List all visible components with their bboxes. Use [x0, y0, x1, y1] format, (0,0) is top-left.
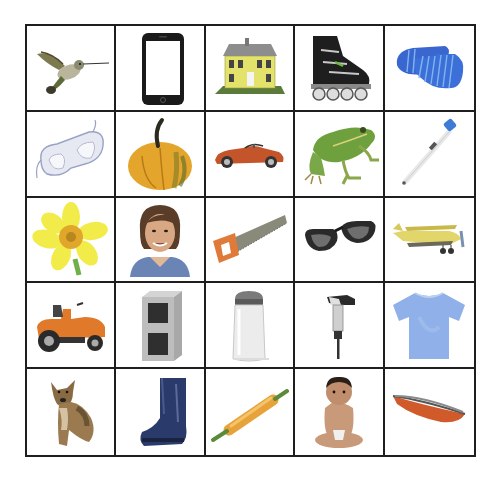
inline-skate-icon: [299, 30, 379, 106]
squash-icon: [120, 116, 200, 192]
cell-rain-boot[interactable]: Rain boot: [116, 369, 205, 455]
cell-inline-skate[interactable]: Inline skate: [295, 26, 384, 112]
tshirt-icon: [389, 287, 469, 363]
woman-icon: [120, 201, 200, 277]
thermometer-icon: [389, 116, 469, 192]
frog-icon: [299, 116, 379, 192]
cell-lawn-mower[interactable]: Riding lawn mower: [27, 283, 116, 369]
cell-jackhammer[interactable]: Jackhammer: [295, 283, 384, 369]
daffodil-icon: [31, 201, 111, 277]
cell-goggles[interactable]: Safety goggles: [27, 112, 116, 198]
saw-icon: [209, 201, 289, 277]
cell-cinder-block[interactable]: Cinder block: [116, 283, 205, 369]
dog-icon: [31, 374, 111, 450]
cell-squash[interactable]: Squash: [116, 112, 205, 198]
house-icon: [209, 30, 289, 106]
smartphone-icon: [120, 30, 200, 106]
jackhammer-icon: [299, 287, 379, 363]
cell-sunglasses[interactable]: Sunglasses: [295, 198, 384, 284]
airplane-icon: [389, 201, 469, 277]
hummingbird-icon: [31, 30, 111, 106]
car-icon: [209, 116, 289, 192]
cell-salt-shaker[interactable]: Salt shaker: [206, 283, 295, 369]
cell-airplane[interactable]: Airplane: [385, 198, 474, 284]
cell-daffodil[interactable]: Daffodil: [27, 198, 116, 284]
cell-dog[interactable]: Dog: [27, 369, 116, 455]
salt-shaker-icon: [209, 287, 289, 363]
cell-tshirt[interactable]: T-shirt: [385, 283, 474, 369]
cell-rolling-pin[interactable]: Rolling pin: [206, 369, 295, 455]
picture-grid: Hummingbird Smartphone House: [25, 24, 476, 457]
cell-canoe[interactable]: Canoe: [385, 369, 474, 455]
boot-icon: [120, 374, 200, 450]
cell-thermometer[interactable]: Thermometer: [385, 112, 474, 198]
rolling-pin-icon: [209, 374, 289, 450]
cell-baby[interactable]: Baby: [295, 369, 384, 455]
lawn-mower-icon: [31, 287, 111, 363]
baby-icon: [299, 374, 379, 450]
canoe-icon: [389, 374, 469, 450]
cell-smartphone[interactable]: Smartphone: [116, 26, 205, 112]
socks-icon: [389, 30, 469, 106]
cell-house[interactable]: House: [206, 26, 295, 112]
cinder-block-icon: [120, 287, 200, 363]
cell-sports-car[interactable]: Sports car: [206, 112, 295, 198]
cell-saw[interactable]: Saw: [206, 198, 295, 284]
cell-frog[interactable]: Frog: [295, 112, 384, 198]
goggles-icon: [31, 116, 111, 192]
cell-socks[interactable]: Socks: [385, 26, 474, 112]
sunglasses-icon: [299, 201, 379, 277]
cell-woman[interactable]: Woman: [116, 198, 205, 284]
cell-hummingbird[interactable]: Hummingbird: [27, 26, 116, 112]
